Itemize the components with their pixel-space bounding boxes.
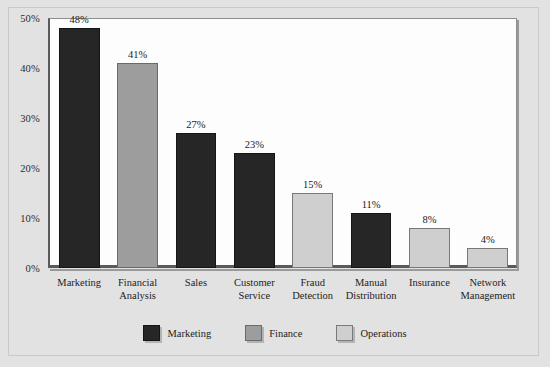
legend-item-label: Marketing xyxy=(167,328,211,339)
x-axis-category-label-line: Detection xyxy=(284,289,342,302)
bar-value-label: 8% xyxy=(409,214,450,225)
bar[interactable] xyxy=(117,63,158,268)
bar[interactable] xyxy=(234,153,275,268)
bar-group: 11% xyxy=(351,18,392,268)
bar[interactable] xyxy=(59,28,100,268)
x-axis: MarketingFinancialAnalysisSalesCustomerS… xyxy=(50,276,517,318)
legend-swatch-icon xyxy=(245,325,262,341)
x-axis-category-label-line: Sales xyxy=(167,276,225,289)
legend-swatch-icon xyxy=(143,325,160,341)
x-axis-category-label-line: Distribution xyxy=(342,289,400,302)
bar-group: 15% xyxy=(292,18,333,268)
legend-item-label: Finance xyxy=(269,328,302,339)
x-axis-category-label: Marketing xyxy=(50,276,108,289)
bar-value-label: 48% xyxy=(59,14,100,25)
bar[interactable] xyxy=(409,228,450,268)
bar-value-label: 27% xyxy=(176,119,217,130)
bar[interactable] xyxy=(351,213,392,268)
y-axis: 0%10%20%30%40%50% xyxy=(0,18,44,268)
x-axis-category-label-line: Network xyxy=(459,276,517,289)
x-axis-category-label-line: Analysis xyxy=(108,289,166,302)
bar-value-label: 15% xyxy=(292,179,333,190)
x-axis-category-label: FinancialAnalysis xyxy=(108,276,166,302)
x-axis-category-label-line: Management xyxy=(459,289,517,302)
bar-group: 23% xyxy=(234,18,275,268)
bar-value-label: 11% xyxy=(351,199,392,210)
x-axis-category-label: Insurance xyxy=(400,276,458,289)
legend-item-label: Operations xyxy=(360,328,406,339)
legend-swatch-icon xyxy=(336,325,353,341)
legend-item-operations[interactable]: Operations xyxy=(336,325,406,341)
bar[interactable] xyxy=(176,133,217,268)
x-axis-category-label: Sales xyxy=(167,276,225,289)
y-axis-tick-label: 0% xyxy=(26,263,40,274)
y-axis-tick-label: 30% xyxy=(20,113,40,124)
y-axis-tick-label: 50% xyxy=(20,13,40,24)
legend-item-finance[interactable]: Finance xyxy=(245,325,302,341)
x-axis-category-label: NetworkManagement xyxy=(459,276,517,302)
x-axis-category-label-line: Marketing xyxy=(50,276,108,289)
x-axis-category-label: ManualDistribution xyxy=(342,276,400,302)
x-axis-category-label-line: Fraud xyxy=(284,276,342,289)
bar-value-label: 4% xyxy=(467,234,508,245)
x-axis-category-label-line: Service xyxy=(225,289,283,302)
x-axis-category-label-line: Customer xyxy=(225,276,283,289)
chart-legend: MarketingFinanceOperations xyxy=(0,325,550,341)
x-axis-category-label: CustomerService xyxy=(225,276,283,302)
x-axis-category-label-line: Manual xyxy=(342,276,400,289)
bar-value-label: 23% xyxy=(234,139,275,150)
y-axis-tick-label: 20% xyxy=(20,163,40,174)
bar[interactable] xyxy=(467,248,508,268)
legend-item-marketing[interactable]: Marketing xyxy=(143,325,211,341)
bar-group: 27% xyxy=(176,18,217,268)
bar-chart-figure: 0%10%20%30%40%50% 48%41%27%23%15%11%8%4%… xyxy=(0,0,550,367)
x-axis-category-label-line: Insurance xyxy=(400,276,458,289)
x-axis-category-label-line: Financial xyxy=(108,276,166,289)
bar-group: 8% xyxy=(409,18,450,268)
bar[interactable] xyxy=(292,193,333,268)
x-axis-category-label: FraudDetection xyxy=(284,276,342,302)
y-axis-tick-label: 10% xyxy=(20,213,40,224)
bars-layer: 48%41%27%23%15%11%8%4% xyxy=(50,18,517,268)
y-axis-tick-label: 40% xyxy=(20,63,40,74)
bar-group: 41% xyxy=(117,18,158,268)
bar-group: 4% xyxy=(467,18,508,268)
bar-group: 48% xyxy=(59,18,100,268)
bar-value-label: 41% xyxy=(117,49,158,60)
